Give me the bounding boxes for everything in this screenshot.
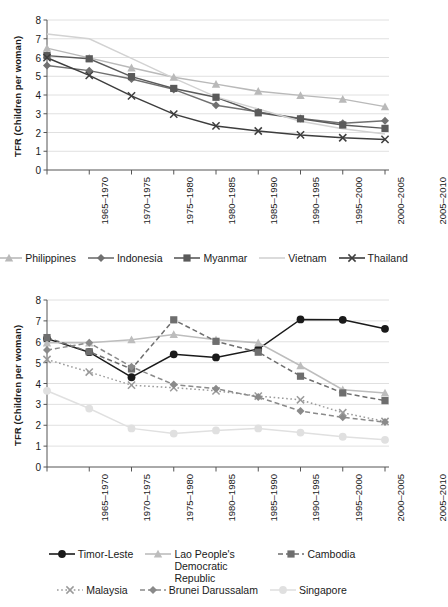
x-tick-label: 1975–1980 xyxy=(183,474,194,522)
y-tick-label: 7 xyxy=(27,33,41,44)
chart-upper: TFR (Children per woman)0123456781965–19… xyxy=(0,0,404,278)
data-point-indonesia-4 xyxy=(212,101,220,109)
legend-label: Vietnam xyxy=(288,252,326,264)
data-point-cambodia-4 xyxy=(212,338,219,345)
x-tick-label: 1980–1985 xyxy=(225,177,236,225)
data-point-indonesia-0 xyxy=(43,62,51,70)
data-point-myanmar-6 xyxy=(297,115,304,122)
data-point-singapore-7 xyxy=(339,433,347,441)
data-point-brunei-darussalam-4 xyxy=(212,385,220,393)
y-tick-label: 2 xyxy=(27,127,41,138)
series-line-myanmar xyxy=(47,56,385,129)
legend-label: Lao People's Democratic Republic xyxy=(174,548,266,584)
legend-item-singapore[interactable]: Singapore xyxy=(270,584,347,596)
legend-label: Timor-Leste xyxy=(78,548,134,560)
legend: Timor-LesteLao People's Democratic Repub… xyxy=(0,548,404,596)
legend-item-vietnam[interactable]: Vietnam xyxy=(259,252,326,264)
x-tick-label: 1980–1985 xyxy=(225,474,236,522)
data-point-singapore-3 xyxy=(170,430,178,438)
data-point-singapore-4 xyxy=(212,427,220,435)
data-point-thailand-2 xyxy=(128,92,135,99)
legend-row: MalaysiaBrunei DarussalamSingapore xyxy=(0,584,404,596)
data-point-cambodia-0 xyxy=(43,334,50,341)
y-tick-label: 3 xyxy=(27,108,41,119)
legend-marker-icon xyxy=(57,584,83,596)
legend-marker-icon xyxy=(270,584,296,596)
legend-label: Thailand xyxy=(368,252,408,264)
legend-item-cambodia[interactable]: Cambodia xyxy=(278,548,355,560)
legend-marker-icon xyxy=(145,548,171,560)
x-tick-label: 1990–1995 xyxy=(310,474,321,522)
data-point-timor-leste-4 xyxy=(212,354,220,362)
legend-item-brunei-darussalam[interactable]: Brunei Darussalam xyxy=(140,584,258,596)
legend-swatch xyxy=(88,252,114,264)
data-point-legend-cambodia-0 xyxy=(288,550,295,557)
data-point-singapore-0 xyxy=(43,387,51,395)
data-point-singapore-1 xyxy=(85,405,93,413)
data-point-singapore-6 xyxy=(297,429,305,437)
y-tick-label: 2 xyxy=(27,420,41,431)
plot-area-lower: TFR (Children per woman)0123456781965–19… xyxy=(47,300,385,467)
data-point-myanmar-5 xyxy=(255,109,262,116)
legend-label: Malaysia xyxy=(86,584,127,596)
legend-swatch xyxy=(259,252,285,264)
y-tick-label: 5 xyxy=(27,71,41,82)
legend-swatch xyxy=(270,584,296,596)
legend-label: Cambodia xyxy=(307,548,355,560)
data-point-legend-myanmar-0 xyxy=(184,254,191,261)
data-point-timor-leste-2 xyxy=(128,373,136,381)
x-tick-label: 1990–1995 xyxy=(310,177,321,225)
data-point-cambodia-6 xyxy=(297,373,304,380)
data-point-cambodia-8 xyxy=(381,397,388,404)
data-point-legend-malaysia-0 xyxy=(67,586,74,593)
data-point-myanmar-8 xyxy=(381,125,388,132)
x-tick-label: 1985–1990 xyxy=(268,177,279,225)
legend-item-lao-people-s-democratic-republic[interactable]: Lao People's Democratic Republic xyxy=(145,548,266,584)
y-tick-label: 4 xyxy=(27,90,41,101)
legend: PhilippinesIndonesiaMyanmarVietnamThaila… xyxy=(0,252,404,264)
legend-marker-icon xyxy=(174,252,200,264)
legend-item-malaysia[interactable]: Malaysia xyxy=(57,584,127,596)
legend-item-myanmar[interactable]: Myanmar xyxy=(174,252,247,264)
x-tick-label: 1970–1975 xyxy=(141,177,152,225)
plot-svg xyxy=(47,300,391,468)
data-point-myanmar-2 xyxy=(128,73,135,80)
legend-marker-icon xyxy=(339,252,365,264)
x-tick-label: 1975–1980 xyxy=(183,177,194,225)
legend-swatch xyxy=(145,548,171,560)
legend-marker-icon xyxy=(88,252,114,264)
legend-item-philippines[interactable]: Philippines xyxy=(0,252,76,264)
data-point-timor-leste-6 xyxy=(297,316,305,324)
legend-row: Timor-LesteLao People's Democratic Repub… xyxy=(0,548,404,584)
data-point-legend-indonesia-0 xyxy=(97,254,105,262)
legend-item-indonesia[interactable]: Indonesia xyxy=(88,252,163,264)
legend-item-timor-leste[interactable]: Timor-Leste xyxy=(49,548,134,560)
data-point-legend-brunei-darussalam-0 xyxy=(149,586,157,594)
legend-label: Indonesia xyxy=(117,252,163,264)
data-point-singapore-5 xyxy=(254,424,262,432)
data-point-cambodia-5 xyxy=(255,349,262,356)
y-tick-label: 6 xyxy=(27,336,41,347)
legend-swatch xyxy=(278,548,304,560)
data-point-malaysia-2 xyxy=(128,382,135,389)
legend-item-thailand[interactable]: Thailand xyxy=(339,252,408,264)
y-tick-label: 5 xyxy=(27,357,41,368)
data-point-timor-leste-7 xyxy=(339,316,347,324)
x-tick-label: 1985–1990 xyxy=(268,474,279,522)
legend-label: Singapore xyxy=(299,584,347,596)
x-tick-label: 1965–1970 xyxy=(99,177,110,225)
y-axis-label: TFR (Children per woman) xyxy=(12,36,23,157)
y-axis-label: TFR (Children per woman) xyxy=(12,324,23,445)
plot-svg xyxy=(47,20,391,171)
x-tick-label: 1995–2000 xyxy=(352,474,363,522)
legend-marker-icon xyxy=(259,252,285,264)
legend-swatch xyxy=(0,252,22,264)
legend-swatch xyxy=(57,584,83,596)
data-point-singapore-8 xyxy=(381,436,389,444)
x-tick-label: 1970–1975 xyxy=(141,474,152,522)
y-tick-label: 6 xyxy=(27,52,41,63)
x-tick-label: 2005–2010 xyxy=(437,474,448,522)
y-tick-label: 1 xyxy=(27,146,41,157)
legend-row: PhilippinesIndonesiaMyanmarVietnamThaila… xyxy=(0,252,404,264)
